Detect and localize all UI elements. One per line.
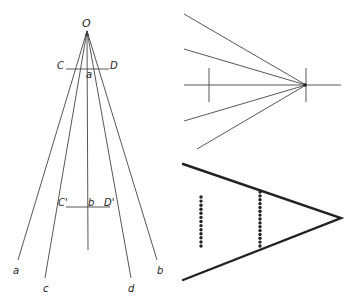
label-ray-c: c bbox=[43, 283, 49, 294]
convergence-point bbox=[303, 83, 307, 87]
label-o: O bbox=[82, 17, 91, 30]
dotted-line-outer bbox=[199, 195, 202, 247]
dot bbox=[258, 190, 261, 193]
label-mid-b: b bbox=[88, 197, 94, 208]
ray-center bbox=[87, 31, 88, 250]
dot bbox=[258, 244, 261, 247]
dot bbox=[199, 220, 202, 223]
label-d-prime: D' bbox=[104, 197, 114, 208]
dot bbox=[258, 194, 261, 197]
dot bbox=[258, 237, 261, 240]
dot bbox=[199, 244, 202, 247]
dot bbox=[199, 240, 202, 243]
converging-ray-1 bbox=[184, 14, 306, 85]
dot bbox=[258, 221, 261, 224]
label-c-prime: C' bbox=[58, 197, 68, 208]
converging-ray-4 bbox=[197, 85, 306, 149]
dot bbox=[199, 204, 202, 207]
dot bbox=[258, 240, 261, 243]
v-shape bbox=[183, 164, 341, 280]
label-ray-a: a bbox=[13, 265, 19, 276]
converging-ray-3 bbox=[184, 85, 306, 121]
dotted-line-inner bbox=[258, 190, 261, 247]
dot bbox=[199, 236, 202, 239]
dot bbox=[258, 206, 261, 209]
dot bbox=[199, 212, 202, 215]
ray-c bbox=[45, 31, 87, 278]
label-mid-a: a bbox=[86, 69, 92, 80]
top-right-panel bbox=[184, 14, 341, 149]
dot bbox=[199, 195, 202, 198]
ray-a bbox=[18, 31, 87, 260]
dot bbox=[199, 216, 202, 219]
dot bbox=[199, 199, 202, 202]
label-ray-b: b bbox=[157, 265, 163, 276]
dot bbox=[258, 229, 261, 232]
dot bbox=[258, 233, 261, 236]
dot bbox=[258, 213, 261, 216]
converging-ray-2 bbox=[184, 49, 306, 85]
dot bbox=[258, 217, 261, 220]
dot bbox=[258, 225, 261, 228]
dot bbox=[258, 198, 261, 201]
dot bbox=[199, 232, 202, 235]
label-ray-d: d bbox=[128, 283, 135, 294]
dot bbox=[258, 202, 261, 205]
left-panel: O C D a C' D' b a c d b bbox=[13, 17, 163, 294]
dot bbox=[199, 228, 202, 231]
label-c: C bbox=[57, 60, 64, 71]
dot bbox=[199, 208, 202, 211]
dot bbox=[258, 210, 261, 213]
dot bbox=[199, 224, 202, 227]
label-d: D bbox=[110, 60, 118, 71]
diagram-canvas: O C D a C' D' b a c d b bbox=[0, 0, 353, 296]
bottom-right-panel bbox=[183, 164, 341, 280]
